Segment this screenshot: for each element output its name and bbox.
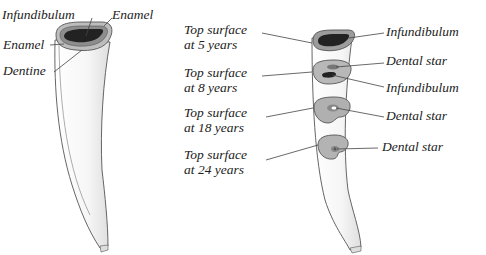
label-surface-24-years: Top surface at 24 years [184,147,247,177]
label-infundibulum-2: Infundibulum [386,80,459,95]
label-dental-star-3: Dental star [382,139,443,154]
label-dentine: Dentine [3,63,46,78]
tooth-wear-diagram: Infundibulum Enamel Enamel Dentine Top s… [0,0,486,255]
label-surface-18-years: Top surface at 18 years [184,105,247,135]
left-tooth [55,22,112,252]
label-dental-star-2: Dental star [386,108,447,123]
label-infundibulum-left: Infundibulum [2,7,75,22]
label-enamel-top: Enamel [112,7,153,22]
label-surface-5-years: Top surface at 5 years [184,22,247,52]
label-surface-8-years: Top surface at 8 years [184,65,247,95]
label-dental-star-1: Dental star [386,53,447,68]
right-tooth [312,30,361,253]
label-enamel-side: Enamel [3,37,44,52]
label-infundibulum-1: Infundibulum [386,24,459,39]
